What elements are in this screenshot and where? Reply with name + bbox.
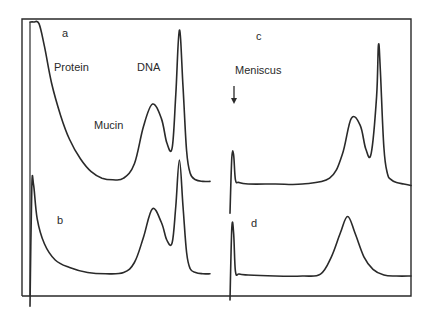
trace-line-b (30, 160, 210, 306)
figure: a Protein DNA Mucin b c Meniscus d (0, 0, 429, 315)
meniscus-label: Meniscus (235, 64, 282, 76)
trace-line-a (30, 21, 210, 181)
protein-label: Protein (54, 61, 89, 73)
dna-label: DNA (137, 61, 161, 73)
meniscus-arrow-icon (231, 86, 237, 104)
panel-label-a: a (62, 27, 69, 39)
panel-label-c: c (256, 30, 262, 42)
panel-label-d: d (251, 217, 257, 229)
trace-line-d (230, 217, 411, 301)
mucin-label: Mucin (94, 119, 123, 131)
panel-label-b: b (57, 214, 63, 226)
